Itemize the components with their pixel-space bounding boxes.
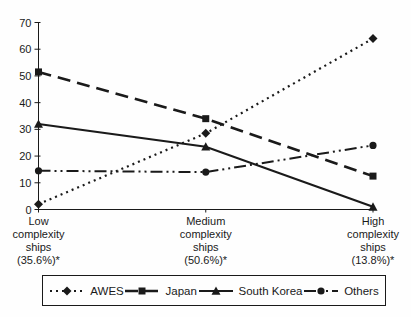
legend-item-south-korea: South Korea xyxy=(198,285,303,297)
legend: AWESJapanSouth KoreaOthers xyxy=(42,275,386,306)
square-marker xyxy=(35,68,42,75)
square-marker xyxy=(370,173,377,180)
circle-marker xyxy=(202,169,209,176)
legend-line-sample xyxy=(49,285,85,297)
y-tick-label: 40 xyxy=(19,97,31,109)
series-line xyxy=(39,72,374,176)
circle-marker xyxy=(369,142,376,149)
chart-canvas: 010203040506070Lowcomplexityships(35.6%)… xyxy=(0,0,411,317)
diamond-marker xyxy=(34,200,43,209)
circle-marker xyxy=(318,287,325,294)
category-label: Lowcomplexityships(35.6%)* xyxy=(13,215,65,266)
line-chart-figure: 010203040506070Lowcomplexityships(35.6%)… xyxy=(0,0,411,317)
square-marker xyxy=(202,115,209,122)
legend-label: AWES xyxy=(90,285,123,297)
legend-line-sample xyxy=(198,285,234,297)
square-marker xyxy=(139,287,146,294)
category-label: Highcomplexityships(13.8%)* xyxy=(347,215,399,266)
legend-label: Others xyxy=(344,285,379,297)
legend-item-others: Others xyxy=(303,285,379,297)
legend-item-awes: AWES xyxy=(49,285,123,297)
y-tick-label: 60 xyxy=(19,43,31,55)
diamond-marker xyxy=(63,286,72,295)
series-japan xyxy=(35,68,377,179)
y-tick-label: 10 xyxy=(19,177,31,189)
diamond-marker xyxy=(369,34,378,43)
circle-marker xyxy=(35,167,42,174)
y-tick-label: 50 xyxy=(19,70,31,82)
diamond-marker xyxy=(201,129,210,138)
y-tick-label: 20 xyxy=(19,150,31,162)
category-label: Mediumcomplexityships(50.6%)* xyxy=(180,215,232,266)
y-tick-label: 30 xyxy=(19,123,31,135)
legend-line-sample xyxy=(303,285,339,297)
legend-line-sample xyxy=(124,285,160,297)
y-tick-label: 70 xyxy=(19,17,31,29)
legend-label: South Korea xyxy=(239,285,303,297)
legend-item-japan: Japan xyxy=(124,285,196,297)
legend-label: Japan xyxy=(165,285,196,297)
